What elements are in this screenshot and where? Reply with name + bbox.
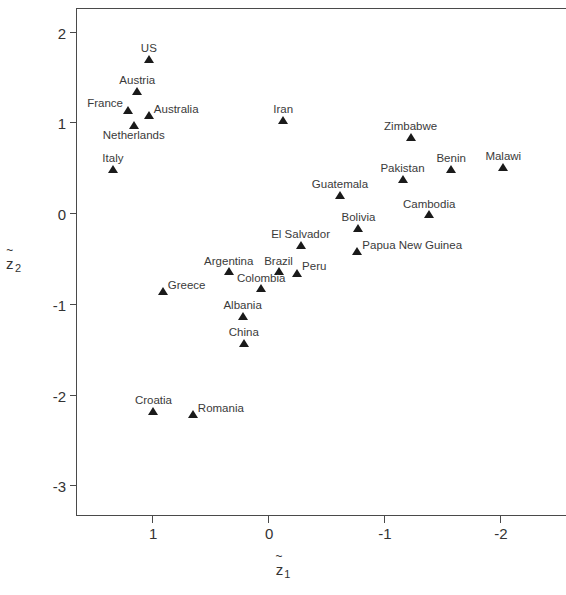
triangle-marker-icon [256, 284, 266, 292]
data-point-label: Colombia [237, 273, 286, 285]
x-tick-0: 0 [268, 515, 269, 523]
y-tick-label: -3 [53, 478, 66, 495]
triangle-marker-icon [406, 133, 416, 141]
triangle-marker-icon [148, 407, 158, 415]
y-tick--2: -2 [70, 395, 77, 396]
triangle-marker-icon [144, 55, 154, 63]
y-tick-0: 0 [70, 213, 77, 214]
triangle-marker-icon [132, 87, 142, 95]
x-tick-label: 0 [265, 525, 273, 542]
data-point-label: Romania [198, 403, 244, 415]
y-tick-label: 2 [58, 24, 66, 41]
y-tick-label: 0 [58, 206, 66, 223]
y-tick--1: -1 [70, 304, 77, 305]
x-axis-title-subscript: 1 [284, 568, 290, 580]
triangle-marker-icon [239, 339, 249, 347]
data-point-label: Argentina [204, 256, 253, 268]
data-point-label: Papua New Guinea [362, 240, 462, 252]
triangle-marker-icon [123, 106, 133, 114]
x-tick-label: -2 [494, 525, 507, 542]
data-point-label: Guatemala [312, 179, 368, 191]
x-tick--2: -2 [500, 515, 501, 523]
triangle-marker-icon [108, 165, 118, 173]
data-point-label: Austria [119, 75, 155, 87]
y-axis-title-subscript: 2 [15, 262, 22, 274]
data-point-label: US [141, 43, 157, 55]
data-point-label: Italy [102, 153, 123, 165]
data-point-label: Albania [223, 300, 261, 312]
triangle-marker-icon [296, 241, 306, 249]
x-tick-label: 1 [149, 525, 157, 542]
triangle-marker-icon [144, 111, 154, 119]
data-point-label: Cambodia [403, 199, 455, 211]
data-point-label: El Salvador [271, 229, 330, 241]
triangle-marker-icon [224, 267, 234, 275]
data-point-label: Netherlands [103, 130, 165, 142]
triangle-marker-icon [292, 269, 302, 277]
data-point-label: Croatia [135, 395, 172, 407]
triangle-marker-icon [352, 247, 362, 255]
y-tick-2: 2 [70, 32, 77, 33]
data-point-label: Iran [273, 104, 293, 116]
y-tick-label: -1 [53, 296, 66, 313]
triangle-marker-icon [238, 312, 248, 320]
y-tick-1: 1 [70, 122, 77, 123]
plot-area: 210-1-2-3 10-1-2 USAustriaFranceAustrali… [76, 8, 566, 516]
y-tick-label: 1 [58, 115, 66, 132]
triangle-marker-icon [498, 163, 508, 171]
triangle-marker-icon [335, 191, 345, 199]
data-point-label: Peru [302, 261, 326, 273]
data-point-label: Bolivia [342, 212, 376, 224]
triangle-marker-icon [129, 121, 139, 129]
y-tick--3: -3 [70, 485, 77, 486]
triangle-marker-icon [158, 287, 168, 295]
data-point-label: China [229, 327, 259, 339]
data-point-label: Greece [168, 280, 206, 292]
y-axis-title-base: z [6, 255, 14, 272]
data-point-label: Benin [436, 153, 465, 165]
y-tick-label: -2 [53, 387, 66, 404]
triangle-marker-icon [398, 175, 408, 183]
triangle-marker-icon [446, 165, 456, 173]
data-point-label: Malawi [485, 151, 521, 163]
data-point-label: Pakistan [380, 163, 424, 175]
x-axis-title: z1 [0, 561, 566, 580]
data-point-label: Brazil [264, 256, 293, 268]
x-tick-label: -1 [378, 525, 391, 542]
x-tick--1: -1 [384, 515, 385, 523]
triangle-marker-icon [188, 410, 198, 418]
x-axis-title-base: z [276, 561, 284, 578]
data-point-label: Zimbabwe [384, 121, 437, 133]
triangle-marker-icon [278, 116, 288, 124]
scatter-plot-figure: 210-1-2-3 10-1-2 USAustriaFranceAustrali… [0, 0, 566, 595]
x-tick-1: 1 [152, 515, 153, 523]
data-point-label: Australia [154, 104, 199, 116]
triangle-marker-icon [424, 210, 434, 218]
data-point-label: France [87, 98, 123, 110]
triangle-marker-icon [353, 224, 363, 232]
y-axis-title: z2 [6, 255, 22, 274]
